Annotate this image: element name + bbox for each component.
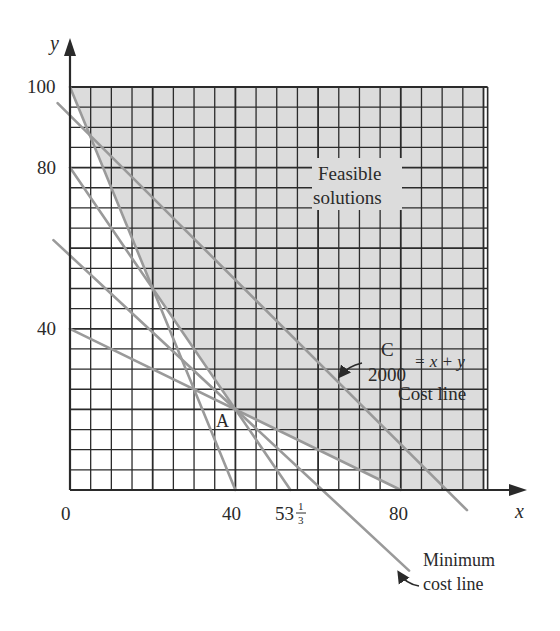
x-axis-arrow-icon: [509, 484, 527, 496]
x-tick-53-whole: 53: [275, 503, 294, 524]
y-tick-80: 80: [37, 157, 56, 178]
plot-area: [53, 87, 487, 571]
point-a-label: A: [216, 411, 229, 431]
min-cost-pointer-arrow-icon: [399, 573, 419, 586]
x-tick-80: 80: [389, 503, 408, 524]
cost-rhs: = x + y: [414, 352, 465, 371]
y-axis-label: y: [48, 32, 59, 55]
x-tick-53-num: 1: [298, 500, 304, 512]
min-cost-label-line1: Minimum: [423, 550, 495, 570]
cost-caption: Cost line: [398, 383, 466, 404]
feasible-label-line2: solutions: [313, 187, 382, 208]
cost-denominator: 2000: [368, 364, 406, 385]
feasible-label-line1: Feasible: [318, 163, 381, 184]
y-tick-100: 100: [27, 76, 56, 97]
y-axis-arrow-icon: [64, 38, 76, 56]
x-axis-label: x: [514, 500, 524, 522]
x-tick-0: 0: [61, 503, 71, 524]
min-cost-label-line2: cost line: [423, 574, 484, 594]
y-tick-40: 40: [37, 318, 56, 339]
linear-programming-chart: y x 100 80 40 0 40 53 1 3 80 Feasible so…: [0, 0, 560, 631]
cost-numerator: C: [381, 339, 394, 360]
x-tick-40: 40: [222, 503, 241, 524]
x-tick-53-den: 3: [298, 514, 304, 526]
